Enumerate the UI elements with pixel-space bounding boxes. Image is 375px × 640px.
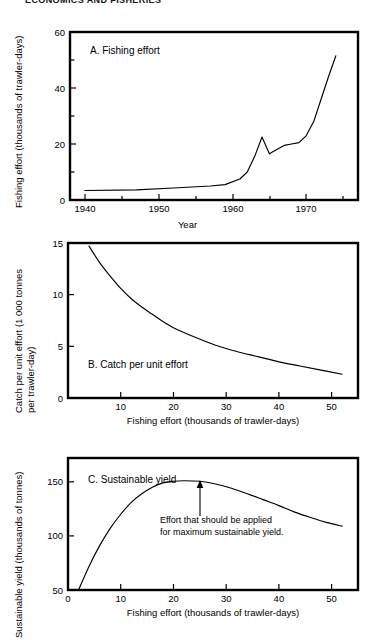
chart-a-ytick-label-60: 60 [54, 27, 65, 38]
chart-b-xtick-label-10: 10 [115, 401, 126, 412]
chart-panel-b: Catch per unit effort (1 000 tonnes per … [0, 228, 375, 433]
chart-b-ylabel-line1: Catch per unit effort (1 000 tonnes [13, 269, 24, 413]
chart-a-data-line [85, 56, 336, 191]
chart-b-xlabel: Fishing effort (thousands of trawler-day… [127, 415, 299, 426]
chart-b-data-line [89, 246, 342, 374]
chart-c-ytick-label-50: 50 [52, 585, 63, 596]
chart-c-xtick-label-50: 50 [326, 593, 337, 604]
chart-b-ylabel-line2: per trawler-day) [25, 346, 36, 413]
chart-c-svg: Sustainable yield (thousands of tonnes) … [0, 440, 375, 640]
chart-a-xtick-label-1940: 1940 [74, 203, 95, 214]
chart-panel-a: Fishing effort (thousands of trawler-day… [0, 18, 375, 218]
chart-c-xtick-label-40: 40 [274, 593, 285, 604]
chart-b-xtick-label-20: 20 [168, 401, 179, 412]
running-head-text: ECONOMICS AND FISHERIES [25, 0, 175, 4]
chart-b-xtick-label-30: 30 [221, 401, 232, 412]
chart-a-xtick-label-1970: 1970 [295, 203, 316, 214]
chart-c-ylabel: Sustainable yield (thousands of tonnes) [13, 472, 24, 638]
chart-c-xtick-label-0: 0 [65, 593, 70, 604]
chart-b-ytick-label-5: 5 [58, 341, 63, 352]
chart-a-svg: Fishing effort (thousands of trawler-day… [0, 18, 375, 218]
chart-b-ytick-label-0: 0 [58, 393, 63, 404]
chart-c-xlabel: Fishing effort (thousands of trawler-day… [127, 607, 299, 618]
chart-a-ylabel: Fishing effort (thousands of trawler-day… [13, 36, 24, 208]
chart-c-ytick-label-100: 100 [47, 530, 63, 541]
chart-a-xtick-label-1950: 1950 [148, 203, 169, 214]
chart-b-ytick-label-10: 10 [52, 289, 63, 300]
chart-a-title: A. Fishing effort [90, 45, 160, 56]
page-running-head: ECONOMICS AND FISHERIES [25, 0, 175, 4]
chart-a-xtick-label-1960: 1960 [222, 203, 243, 214]
chart-panel-c: Sustainable yield (thousands of tonnes) … [0, 440, 375, 640]
chart-c-annotation-line2: for maximum sustainable yield. [160, 527, 284, 537]
chart-c-annotation-line1: Effort that should be applied [160, 515, 272, 525]
chart-a-ytick-label-0: 0 [60, 195, 65, 206]
chart-b-plot-frame [68, 243, 358, 398]
chart-b-svg: Catch per unit effort (1 000 tonnes per … [0, 228, 375, 433]
chart-c-ytick-label-150: 150 [47, 476, 63, 487]
chart-c-xtick-label-20: 20 [168, 593, 179, 604]
chart-c-xtick-label-10: 10 [115, 593, 126, 604]
chart-a-plot-frame [70, 32, 358, 200]
chart-b-xtick-label-40: 40 [274, 401, 285, 412]
chart-b-ytick-label-15: 15 [52, 238, 63, 249]
chart-a-ytick-label-40: 40 [54, 83, 65, 94]
chart-a-ytick-label-20: 20 [54, 139, 65, 150]
chart-b-xtick-label-50: 50 [326, 401, 337, 412]
chart-c-xtick-label-30: 30 [221, 593, 232, 604]
chart-b-title: B. Catch per unit effort [88, 359, 188, 370]
